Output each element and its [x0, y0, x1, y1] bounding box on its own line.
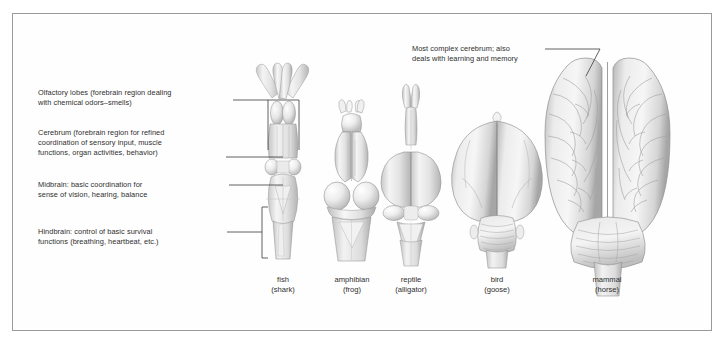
caption-amphibian-species: (frog) — [343, 285, 361, 294]
caption-mammal-common: mammal — [592, 275, 621, 284]
bracket-hindbrain — [262, 207, 268, 258]
caption-bird: bird(goose) — [462, 275, 532, 296]
annotation-olfactory-line2: with chemical odors–smells) — [38, 98, 132, 107]
caption-bird-common: bird — [491, 275, 504, 284]
annotation-mammal-line1: Most complex cerebrum; also — [412, 44, 510, 53]
reptile-brain-illustration — [381, 84, 441, 266]
caption-mammal-species: (horse) — [595, 285, 619, 294]
annotation-olfactory-lobes: Olfactory lobes (forebrain region dealin… — [38, 88, 172, 108]
annotation-cerebrum-line1: Cerebrum (forebrain region for refined — [38, 128, 164, 137]
caption-reptile: reptile(alligator) — [376, 275, 446, 296]
annotation-hindbrain-line2: functions (breathing, heartbeat, etc.) — [38, 237, 159, 246]
annotation-olfactory-line1: Olfactory lobes (forebrain region dealin… — [38, 88, 172, 97]
bird-brain-illustration — [452, 112, 543, 268]
caption-amphibian-common: amphibian — [334, 275, 369, 284]
annotation-midbrain-line2: sense of vision, hearing, balance — [38, 190, 147, 199]
caption-mammal: mammal(horse) — [572, 275, 642, 296]
annotation-midbrain-line1: Midbrain: basic coordination for — [38, 180, 142, 189]
fish-brain-illustration — [256, 63, 309, 259]
annotation-mammal-cerebrum: Most complex cerebrum; alsodeals with le… — [412, 44, 518, 64]
caption-reptile-species: (alligator) — [395, 285, 427, 294]
annotation-cerebrum: Cerebrum (forebrain region for refinedco… — [38, 128, 164, 159]
amphibian-brain-illustration — [324, 100, 379, 261]
caption-fish: fish(shark) — [248, 275, 318, 296]
annotation-hindbrain-line1: Hindbrain: control of basic survival — [38, 227, 152, 236]
annotation-cerebrum-line3: functions, organ activities, behavior) — [38, 148, 158, 157]
annotation-hindbrain: Hindbrain: control of basic survivalfunc… — [38, 227, 159, 247]
annotation-midbrain: Midbrain: basic coordination forsense of… — [38, 180, 147, 200]
annotation-cerebrum-line2: coordination of sensory input, muscle — [38, 138, 162, 147]
caption-bird-species: (goose) — [484, 285, 510, 294]
caption-reptile-common: reptile — [401, 275, 422, 284]
brain-comparison-figure: Olfactory lobes (forebrain region dealin… — [0, 0, 725, 345]
caption-fish-species: (shark) — [271, 285, 295, 294]
annotation-mammal-line2: deals with learning and memory — [412, 54, 518, 63]
caption-fish-common: fish — [277, 275, 289, 284]
mammal-brain-illustration — [545, 58, 670, 296]
